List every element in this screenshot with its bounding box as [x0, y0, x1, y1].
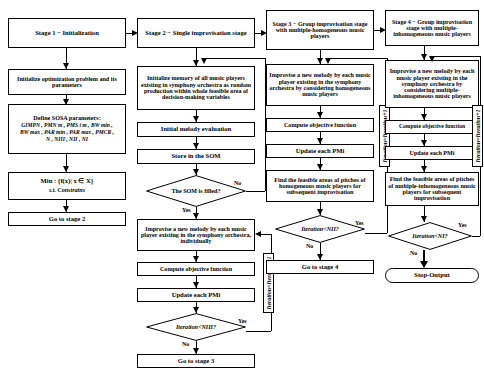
improvise-group-box-3: Improvise a new melody by each music pla…	[266, 64, 374, 106]
subject-to-label: s.t. Constrains	[11, 187, 123, 193]
conn-iter2-yes-h	[246, 331, 271, 332]
stage4-header-label: Stage 4 − Group improvisation stage with…	[388, 19, 476, 38]
store-som-label: Store in the SOM	[140, 153, 252, 160]
find-feasible-box-4: Find the feasible areas of pitches of mu…	[385, 172, 479, 206]
initial-melody-box: Initial melody evaluation	[137, 122, 255, 137]
update-pmi-label-4: Update each PMi	[388, 150, 476, 156]
conn-iter4-yes-h	[472, 236, 480, 237]
goto-stage4-box: Go to stage 4	[266, 260, 374, 274]
compute-objective-box-4: Compute objective function	[385, 120, 479, 134]
arrow-down-iter4-return	[429, 56, 435, 62]
conn-som-no-h	[246, 191, 265, 192]
stage2-header-label: Stage 2 − Single improvisation stage	[140, 30, 252, 37]
goto-stage4-label: Go to stage 4	[269, 264, 371, 271]
update-pmi-box-2: Update each PMi	[137, 288, 255, 302]
iteration-niii-label: Iteration<NIII?	[176, 324, 216, 330]
arrow-down-iter4-no	[420, 261, 428, 268]
arrow-left-iter2-return	[255, 231, 261, 237]
iter4-no-label: No	[410, 250, 417, 256]
arrow-down-som-no-return	[201, 58, 207, 64]
som-filled-label: The SOM is filled?	[172, 188, 221, 194]
iteration-ni-label: Iteration<NI?	[412, 233, 447, 239]
find-feasible-label-3: Find the feasible areas of pitches of ho…	[269, 177, 371, 196]
init-memory-box: Initialize memory of all music players e…	[137, 66, 255, 110]
initial-melody-label: Initial melody evaluation	[140, 126, 252, 133]
som-yes-label: Yes	[182, 207, 191, 213]
goto-stage2-box: Go to stage 2	[8, 212, 126, 226]
conn-iter4-yes-back-h	[432, 56, 480, 57]
compute-objective-box-3: Compute objective function	[266, 118, 374, 132]
iteration-niii-label-wrap: Iteration<NIII?	[146, 313, 246, 341]
update-pmi-box-3: Update each PMi	[266, 144, 374, 158]
conn-som-no-back-h	[204, 58, 265, 59]
update-pmi-box-4: Update each PMi	[385, 146, 479, 160]
objective-box: Min : {f(x)| x ∈ X} s.t. Constrains	[8, 172, 126, 200]
arrow-down-iter3-return	[325, 58, 331, 64]
stop-output-label: Stop-Output	[388, 272, 476, 279]
update-pmi-label-3: Update each PMi	[269, 148, 371, 155]
find-feasible-label-4: Find the feasible areas of pitches of mu…	[388, 176, 476, 201]
iter2-no-label: No	[182, 341, 189, 347]
stage4-header-box: Stage 4 − Group improvisation stage with…	[385, 10, 479, 46]
compute-objective-label-4: Compute objective function	[388, 124, 476, 130]
iteration-nii-label: Iteration<NII?	[301, 226, 339, 232]
conn-iter2-yes-back-h	[261, 234, 271, 235]
goto-stage2-label: Go to stage 2	[11, 216, 123, 223]
improvise-single-label: Improvise a new melody by each music pla…	[140, 226, 252, 245]
iter4-yes-label: Yes	[458, 222, 467, 228]
conn-iter3-yes-h	[365, 233, 387, 234]
iteration-niii-decision: Iteration<NIII?	[146, 313, 246, 341]
stage3-header-label: Stage 3 − Group improvisation stage with…	[269, 21, 371, 40]
improvise-group-label-3: Improvise a new melody by each music pla…	[269, 72, 371, 97]
iter2-yes-label: Yes	[238, 318, 247, 324]
compute-objective-box-2: Compute objective function	[137, 262, 255, 276]
compute-objective-label-3: Compute objective function	[269, 122, 371, 128]
stage2-header-box: Stage 2 − Single improvisation stage	[137, 18, 255, 48]
define-params-title: Define SOSA parameters:	[11, 115, 123, 121]
iteration-increment-label-4: Iteration=Iteration+1	[472, 105, 483, 167]
objective-label: Min : {f(x)| x ∈ X}	[11, 178, 123, 185]
som-no-label: No	[234, 180, 241, 186]
conn-iter3-yes-back-h	[328, 58, 387, 59]
iteration-nii-label-wrap: Iteration<NII?	[275, 215, 365, 243]
stop-output-box: Stop-Output	[385, 268, 479, 283]
params-line-2: BW max , PAR min , PAR max , PMCR ,	[11, 130, 123, 136]
params-line-3: N , NIII , NII , NI	[11, 137, 123, 143]
iter3-yes-label: Yes	[355, 220, 364, 226]
update-pmi-label-2: Update each PMi	[140, 292, 252, 299]
iter3-no-label: No	[306, 243, 313, 249]
init-problem-box: Initialize optimization problem and its …	[8, 69, 126, 95]
find-feasible-box-3: Find the feasible areas of pitches of ho…	[266, 170, 374, 202]
goto-stage3-box: Go to stage 3	[137, 354, 255, 368]
improvise-group-label-4: Improvise a new melody by each music pla…	[388, 68, 476, 99]
som-filled-decision: The SOM is filled?	[146, 175, 246, 207]
goto-stage3-label: Go to stage 3	[140, 358, 252, 365]
stage1-header-label: Stage 1 − Initialization	[11, 30, 123, 37]
init-problem-label: Initialize optimization problem and its …	[11, 76, 123, 89]
flowchart-canvas: Stage 1 − Initialization Initialize opti…	[0, 0, 484, 384]
improvise-group-box-4: Improvise a new melody by each music pla…	[385, 60, 479, 108]
som-filled-label-wrap: The SOM is filled?	[146, 175, 246, 207]
stage3-header-box: Stage 3 − Group improvisation stage with…	[266, 10, 374, 50]
stage1-header-box: Stage 1 − Initialization	[8, 18, 126, 48]
store-som-box: Store in the SOM	[137, 149, 255, 164]
init-memory-label: Initialize memory of all music players e…	[140, 75, 252, 100]
iteration-nii-decision: Iteration<NII?	[275, 215, 365, 243]
improvise-single-box: Improvise a new melody by each music pla…	[137, 219, 255, 251]
compute-objective-label-2: Compute objective function	[140, 266, 252, 272]
params-line-1: GIMPN , PMN m , PMS i m , BW min ,	[11, 123, 123, 129]
define-params-box: Define SOSA parameters: GIMPN , PMN m , …	[8, 104, 126, 154]
